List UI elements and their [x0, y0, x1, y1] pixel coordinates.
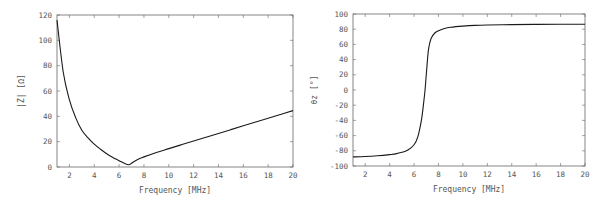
- y-tick-label: -80: [334, 146, 348, 155]
- y-tick-label: -20: [334, 101, 348, 110]
- left-x-ticks: 2468101214161820: [67, 15, 298, 180]
- x-tick-label: 4: [92, 171, 97, 180]
- right-x-ticks: 2468101214161820: [363, 14, 590, 179]
- impedance-magnitude-plot: 2468101214161820 020406080100120 Frequen…: [17, 11, 298, 196]
- y-tick-label: 120: [38, 11, 52, 20]
- impedance-phase-plot: 2468101214161820 -100-80-60-40-200204060…: [310, 10, 590, 195]
- y-tick-label: 100: [334, 10, 348, 19]
- y-tick-label: 0: [47, 163, 52, 172]
- y-tick-label: -40: [334, 116, 348, 125]
- left-y-ticks: 020406080100120: [38, 11, 293, 172]
- x-tick-label: 8: [436, 170, 441, 179]
- y-tick-label: 40: [339, 55, 349, 64]
- x-tick-label: 12: [483, 170, 492, 179]
- x-tick-label: 14: [507, 170, 517, 179]
- x-tick-label: 6: [412, 170, 417, 179]
- x-tick-label: 10: [164, 171, 174, 180]
- x-tick-label: 18: [556, 170, 566, 179]
- right-axes-frame: [353, 14, 585, 166]
- x-tick-label: 2: [67, 171, 72, 180]
- x-tick-label: 4: [387, 170, 392, 179]
- x-tick-label: 8: [142, 171, 147, 180]
- x-tick-label: 10: [458, 170, 468, 179]
- y-tick-label: -100: [330, 162, 349, 171]
- left-y-axis-label: |Z| [Ω]: [17, 74, 26, 108]
- y-tick-label: 100: [38, 36, 52, 45]
- x-tick-label: 16: [532, 170, 542, 179]
- x-tick-label: 6: [117, 171, 122, 180]
- y-tick-label: 80: [43, 61, 53, 70]
- y-tick-label: 20: [339, 70, 349, 79]
- impedance-curve: [57, 20, 293, 165]
- x-tick-label: 14: [214, 171, 224, 180]
- x-tick-label: 12: [189, 171, 198, 180]
- y-tick-label: -60: [334, 131, 348, 140]
- left-x-axis-label: Frequency [MHz]: [139, 186, 211, 195]
- y-tick-label: 20: [43, 137, 53, 146]
- x-tick-label: 18: [264, 171, 274, 180]
- x-tick-label: 16: [239, 171, 249, 180]
- right-y-ticks: -100-80-60-40-20020406080100: [330, 10, 585, 171]
- chart-canvas: 2468101214161820 020406080100120 Frequen…: [0, 0, 602, 206]
- phase-curve: [353, 24, 585, 157]
- x-tick-label: 2: [363, 170, 368, 179]
- y-tick-label: 60: [339, 40, 349, 49]
- x-tick-label: 20: [580, 170, 590, 179]
- x-tick-label: 20: [288, 171, 298, 180]
- left-axes-frame: [57, 15, 293, 167]
- y-tick-label: 40: [43, 112, 53, 121]
- y-tick-label: 0: [343, 86, 348, 95]
- right-y-axis-label: θz [°]: [310, 76, 319, 105]
- y-tick-label: 60: [43, 87, 53, 96]
- y-tick-label: 80: [339, 25, 349, 34]
- right-x-axis-label: Frequency [MHz]: [433, 185, 505, 194]
